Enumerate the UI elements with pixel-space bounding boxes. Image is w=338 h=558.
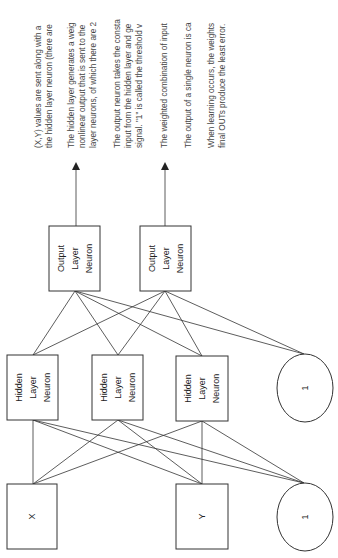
note-line: The hidden layer generates a weig — [67, 22, 76, 148]
hidden-neuron-label: Hidden — [183, 374, 193, 403]
output-neuron-label: Layer — [161, 247, 171, 270]
hidden-neuron-2: Hidden Layer Neuron — [92, 355, 143, 420]
note-line: The output neuron takes the consta — [113, 19, 122, 148]
hidden-neuron-label: Neuron — [42, 373, 52, 403]
output-neuron-label: Neuron — [84, 244, 94, 274]
hidden-neuron-label: Layer — [113, 376, 123, 399]
input-node-x: X — [7, 484, 57, 549]
input-to-hidden-edges — [33, 420, 304, 484]
note-line: signal. "1" is called the threshold v — [135, 23, 144, 148]
hidden-neuron-label: Layer — [28, 376, 38, 399]
output-neuron-2: Output Layer Neuron — [140, 226, 191, 291]
bias-label: 1 — [300, 514, 310, 519]
bias-label: 1 — [300, 385, 310, 390]
neural-network-diagram: (X,Y) values are sent along with a the h… — [0, 0, 338, 558]
hidden-bias-node: 1 — [277, 354, 333, 422]
hidden-neuron-label: Layer — [197, 377, 207, 400]
hidden-neuron-3: Hidden Layer Neuron — [176, 356, 228, 421]
note-line: nonlinear output that is sent to the — [78, 24, 87, 148]
hidden-neuron-label: Neuron — [211, 374, 221, 404]
description-notes: (X,Y) values are sent along with a the h… — [34, 19, 227, 148]
note-line: layer neurons, of which there are 2 — [89, 21, 98, 148]
note-line: final OUTs produce the least error. — [218, 24, 227, 148]
note-line: When learning occurs, the weights — [207, 23, 216, 148]
output-neuron-label: Layer — [70, 247, 80, 270]
input-bias-node: 1 — [277, 483, 333, 551]
note-line: input from the hidden layer and ge — [124, 23, 133, 148]
output-neuron-label: Output — [56, 244, 66, 272]
output-neuron-label: Neuron — [175, 244, 185, 274]
note-line: The output of a single neuron is ca — [184, 22, 193, 148]
hidden-neuron-1: Hidden Layer Neuron — [7, 355, 58, 420]
hidden-neuron-label: Hidden — [99, 373, 109, 402]
hidden-to-output-edges — [33, 291, 304, 356]
input-node-y: Y — [176, 484, 228, 549]
note-line: (X,Y) values are sent along with a — [34, 25, 43, 148]
note-line: The weighted combination of input — [160, 23, 169, 148]
hidden-neuron-label: Hidden — [14, 373, 24, 402]
input-label: Y — [197, 513, 207, 519]
hidden-neuron-label: Neuron — [127, 373, 137, 403]
output-neuron-label: Output — [147, 244, 157, 272]
note-line: the hidden layer neuron (there are — [45, 24, 54, 148]
output-neuron-1: Output Layer Neuron — [49, 226, 100, 291]
input-label: X — [27, 513, 37, 519]
